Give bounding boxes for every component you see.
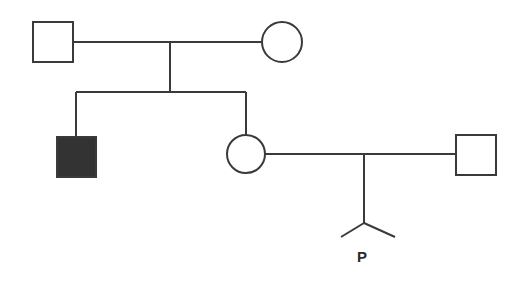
proband-label: P: [357, 248, 367, 265]
male-unaffected-gen1-icon: [33, 22, 73, 62]
female-unaffected-gen2-icon: [227, 135, 265, 173]
fork-left: [341, 223, 364, 237]
fork-right: [364, 223, 395, 237]
male-affected-gen2-icon: [57, 137, 96, 177]
male-unaffected-spouse-icon: [456, 135, 496, 175]
pedigree-svg: [0, 0, 528, 287]
female-unaffected-gen1-icon: [262, 22, 302, 62]
pedigree-diagram: P: [0, 0, 528, 287]
